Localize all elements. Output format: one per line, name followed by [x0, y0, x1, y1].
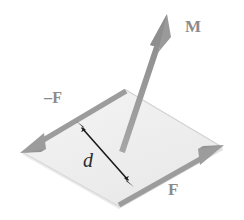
force-negative-label: –F: [44, 90, 62, 106]
distance-label: d: [83, 150, 93, 170]
moment-label: M: [185, 18, 201, 35]
couple-moment-figure: M –F F d: [0, 0, 244, 220]
force-positive-label: F: [168, 181, 179, 198]
figure-canvas: [0, 0, 244, 220]
